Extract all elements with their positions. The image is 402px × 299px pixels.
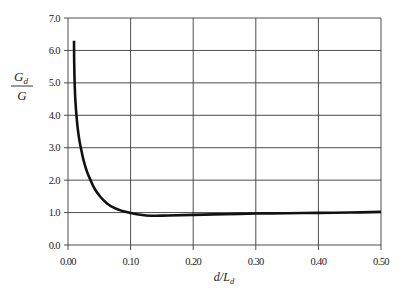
x-tick-label: 0.40: [310, 256, 326, 267]
y-label-denominator: G: [17, 88, 27, 103]
y-tick-label: 0.0: [49, 240, 61, 251]
y-tick-label: 5.0: [49, 77, 61, 88]
x-tick-label: 0.30: [248, 256, 264, 267]
data-line: [74, 41, 381, 216]
y-label-numerator: Gd: [14, 69, 28, 86]
y-tick-label: 1.0: [49, 207, 61, 218]
y-tick-label: 2.0: [49, 175, 61, 186]
y-tick-label: 4.0: [49, 110, 61, 121]
x-label-text: d/Ld: [214, 270, 235, 286]
y-tick-label: 3.0: [49, 142, 61, 153]
x-tick-label: 0.10: [123, 256, 139, 267]
x-axis-ticks: 0.000.100.200.300.400.50: [60, 256, 389, 267]
y-tick-label: 7.0: [49, 13, 61, 24]
x-tick-label: 0.20: [185, 256, 201, 267]
x-tick-label: 0.00: [60, 256, 76, 267]
y-tick-label: 6.0: [49, 45, 61, 56]
y-axis-ticks: 0.01.02.03.04.05.06.07.0: [49, 13, 61, 251]
x-axis-label: d/Ld: [214, 270, 235, 286]
x-tick-label: 0.50: [373, 256, 389, 267]
chart: 0.01.02.03.04.05.06.07.0 0.000.100.200.3…: [0, 0, 402, 299]
y-axis-label: Gd G: [11, 69, 33, 103]
